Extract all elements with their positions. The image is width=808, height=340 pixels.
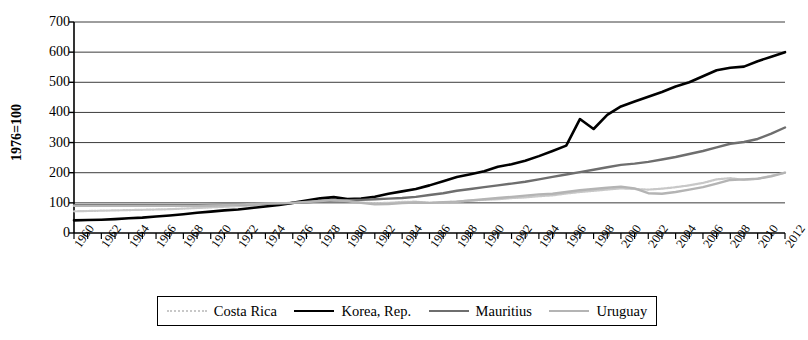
series-lines (74, 52, 785, 220)
legend-item-uruguay[interactable]: Uruguay (549, 303, 647, 320)
y-tick-200: 200 (36, 166, 70, 180)
y-tick-600: 600 (36, 45, 70, 59)
y-tick-500: 500 (36, 75, 70, 89)
series-line-mauritius (74, 128, 785, 206)
legend-swatch-icon (549, 310, 589, 312)
y-tick-300: 300 (36, 136, 70, 150)
chart-legend: Costa RicaKorea, Rep.MauritiusUruguay (157, 296, 657, 326)
series-line-uruguay (74, 173, 785, 206)
legend-label: Korea, Rep. (341, 303, 411, 320)
legend-label: Mauritius (476, 303, 532, 320)
legend-swatch-icon (429, 310, 469, 312)
axis-lines (74, 22, 785, 233)
legend-label: Costa Rica (214, 303, 277, 320)
legend-swatch-icon (294, 310, 334, 312)
y-tick-700: 700 (36, 15, 70, 29)
legend-label: Uruguay (596, 303, 647, 320)
legend-swatch-icon (167, 310, 207, 312)
legend-item-costa-rica[interactable]: Costa Rica (167, 303, 277, 320)
legend-item-mauritius[interactable]: Mauritius (429, 303, 532, 320)
legend-item-korea-rep[interactable]: Korea, Rep. (294, 303, 411, 320)
gridlines (74, 22, 785, 203)
y-axis-tick-labels: 0100200300400500600700 (30, 0, 70, 340)
y-tick-400: 400 (36, 105, 70, 119)
y-axis-title: 1976=100 (2, 78, 32, 188)
y-tick-100: 100 (36, 196, 70, 210)
y-tick-0: 0 (36, 226, 70, 240)
